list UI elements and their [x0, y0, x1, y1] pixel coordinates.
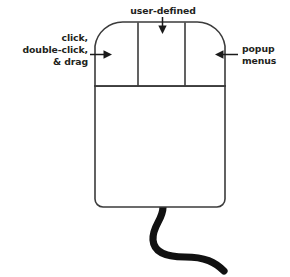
label-click-line2: double-click,: [23, 44, 88, 55]
label-popup-line1: popup: [242, 43, 275, 54]
mouse-diagram-figure: user-defined click, double-click, & drag…: [0, 0, 290, 277]
label-popup-line2: menus: [242, 55, 277, 66]
label-click-line3: & drag: [53, 56, 88, 67]
mouse-cord: [153, 207, 224, 271]
label-click-line1: click,: [61, 32, 88, 43]
mouse-button-area: [95, 22, 225, 86]
label-user-defined: user-defined: [130, 5, 195, 16]
diagram-canvas: user-defined click, double-click, & drag…: [0, 0, 290, 277]
mouse-body: [95, 86, 225, 207]
